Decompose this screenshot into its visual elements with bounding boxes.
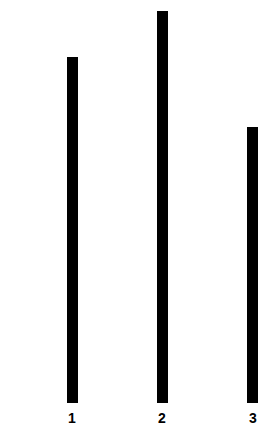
x-tick-label-1: 1: [62, 410, 82, 426]
bar-3: [247, 127, 258, 403]
x-tick-label-2: 2: [152, 410, 172, 426]
bar-chart: 1 2 3: [0, 0, 258, 440]
bar-2: [157, 11, 168, 403]
x-tick-label-3: 3: [243, 410, 258, 426]
bar-1: [67, 57, 78, 403]
